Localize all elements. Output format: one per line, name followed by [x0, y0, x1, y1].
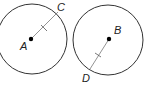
circle-a-group: A C [0, 1, 67, 74]
label-c: C [57, 1, 65, 13]
radius-ac [31, 12, 58, 39]
circle-a [0, 4, 67, 74]
circle-b-group: B D [73, 5, 143, 84]
radius-bd [90, 39, 109, 69]
diagram: A C B D [0, 0, 144, 85]
label-b: B [114, 24, 121, 36]
center-point-a [29, 37, 33, 41]
center-point-b [107, 37, 111, 41]
label-a: A [19, 40, 27, 52]
label-d: D [82, 72, 90, 84]
